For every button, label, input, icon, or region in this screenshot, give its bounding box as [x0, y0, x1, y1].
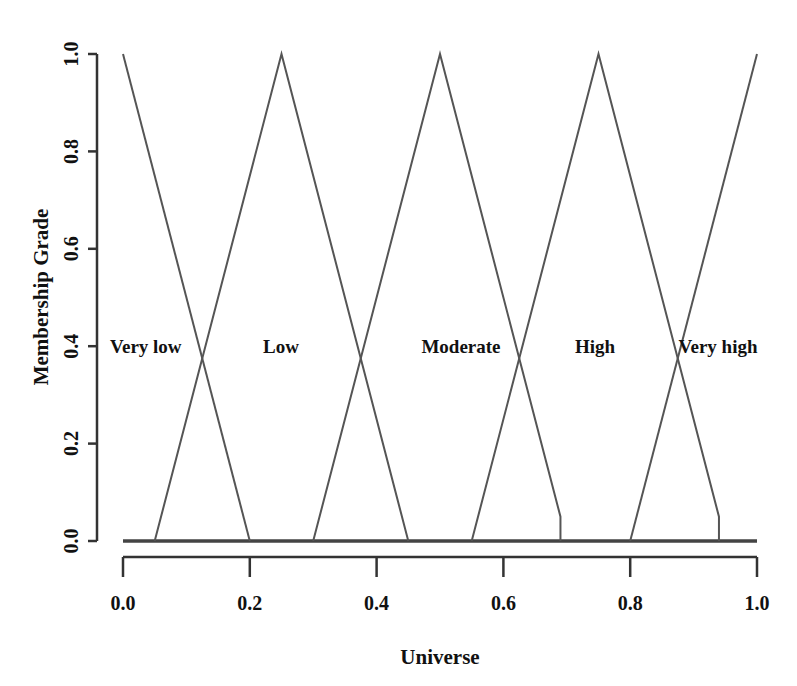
set-label-very-high: Very high [678, 336, 757, 357]
x-tick-label: 0.4 [364, 592, 389, 614]
y-tick-label: 0.8 [60, 139, 82, 164]
series-high [472, 54, 719, 541]
series-moderate [313, 54, 560, 541]
x-tick-label: 0.8 [618, 592, 643, 614]
x-tick-label: 0.6 [491, 592, 516, 614]
x-tick-label: 0.2 [237, 592, 262, 614]
x-tick-label: 0.0 [111, 592, 136, 614]
y-tick-label: 0.2 [60, 431, 82, 456]
y-tick-label: 0.6 [60, 236, 82, 261]
series-low [155, 54, 409, 541]
series-very-high [630, 54, 757, 541]
y-tick-label: 0.4 [60, 334, 82, 359]
series-very-low [123, 54, 250, 541]
set-label-moderate: Moderate [421, 336, 500, 357]
y-tick-label: 0.0 [60, 529, 82, 554]
set-label-low: Low [263, 336, 299, 357]
y-axis: 0.00.20.40.60.81.0 [60, 42, 97, 554]
y-axis-title: Membership Grade [29, 209, 53, 386]
x-axis: 0.00.20.40.60.81.0 [111, 557, 770, 614]
membership-function-chart: 0.00.20.40.60.81.0 0.00.20.40.60.81.0 Ve… [0, 0, 797, 686]
set-label-high: High [575, 336, 616, 357]
x-tick-label: 1.0 [745, 592, 770, 614]
y-tick-label: 1.0 [60, 42, 82, 67]
set-label-very-low: Very low [110, 336, 182, 357]
series-lines [123, 54, 757, 541]
x-axis-title: Universe [400, 645, 479, 669]
